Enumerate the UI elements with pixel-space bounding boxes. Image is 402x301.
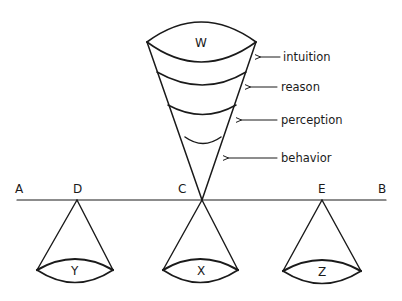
lower-cone-x: X <box>163 200 238 283</box>
label-intuition: intuition <box>283 50 331 64</box>
label-x: X <box>197 264 205 278</box>
point-label-c: C <box>178 182 186 196</box>
level-arc-2 <box>168 105 236 115</box>
upper-cone-left-edge <box>147 42 202 200</box>
label-z: Z <box>318 265 326 279</box>
level-annotations: intuition reason perception behavior <box>228 50 343 165</box>
point-label-d: D <box>73 182 82 196</box>
label-w: W <box>195 36 207 50</box>
upper-cone-right-edge <box>202 42 256 200</box>
label-behavior: behavior <box>281 151 332 165</box>
upper-cone: W <box>147 22 256 200</box>
point-label-a: A <box>15 182 24 196</box>
level-arc-1 <box>157 72 246 85</box>
label-y: Y <box>70 264 79 278</box>
lower-cone-z: Z <box>283 200 361 284</box>
point-label-b: B <box>378 182 386 196</box>
label-perception: perception <box>281 113 343 127</box>
lower-cone-y: Y <box>37 200 113 283</box>
label-reason: reason <box>281 80 320 94</box>
cone-diagram: A B D C E W intuition reason perception … <box>0 0 402 301</box>
level-arc-3 <box>185 137 221 144</box>
point-label-e: E <box>318 182 326 196</box>
